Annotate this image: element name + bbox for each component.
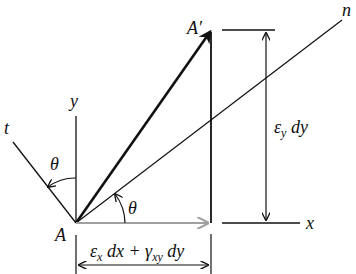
vertical-dimension-label: εy dy xyxy=(274,117,308,140)
horizontal-dimension-label: εx dx + γxy dy xyxy=(90,241,184,264)
strain-diagram: y t n x εy dy εx dx + γxy dy θ θ A A′ xyxy=(0,0,356,274)
displacement-vector xyxy=(76,32,210,223)
theta-arc-lower xyxy=(115,194,125,223)
theta-label-lower: θ xyxy=(128,198,137,218)
y-axis-label: y xyxy=(68,91,78,111)
point-a-label: A xyxy=(54,225,67,245)
t-axis-label: t xyxy=(4,118,10,138)
t-axis xyxy=(13,142,76,223)
x-axis-label: x xyxy=(305,213,314,233)
point-a-prime-label: A′ xyxy=(186,18,203,38)
theta-arc-upper xyxy=(48,178,76,187)
n-axis-label: n xyxy=(342,0,351,20)
theta-label-upper: θ xyxy=(50,154,59,174)
